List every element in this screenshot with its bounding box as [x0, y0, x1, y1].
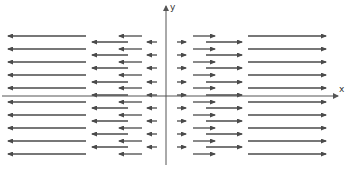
vector-arrows: [8, 36, 326, 154]
vector-field-plot: [0, 0, 348, 176]
x-axis-label: x: [339, 84, 344, 94]
y-axis-label: y: [170, 2, 175, 12]
